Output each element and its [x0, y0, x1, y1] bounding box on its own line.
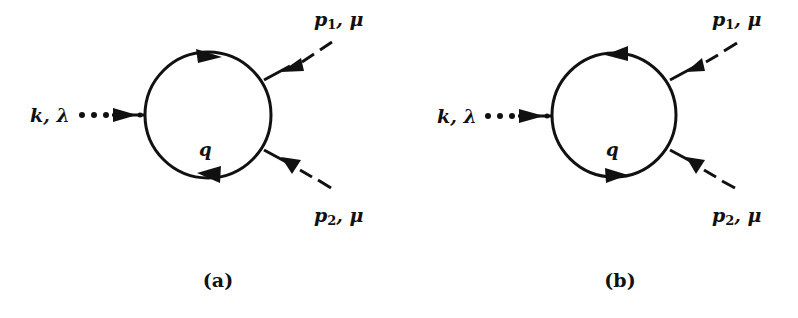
panel-a-p1-index: , μ: [336, 8, 363, 30]
panel-a-p1-dashed-line: [302, 42, 332, 62]
panel-b-p2-subscript: 2: [725, 213, 734, 228]
panel-a-p1-label: p1, μ: [314, 10, 363, 31]
panel-a-p2-symbol: p: [314, 204, 327, 226]
feynman-diagram-figure: k, λ p1, μ p2, μ q (a) k, λ p1, μ p2, μ …: [0, 0, 798, 318]
panel-b-incoming-label: k, λ: [437, 107, 477, 126]
panel-a-p2-label: p2, μ: [314, 206, 363, 227]
panel-a-caption: (a): [203, 271, 233, 290]
panel-a-p2-dashed-line: [300, 170, 331, 188]
panel-a-bottom-arrow-icon: [197, 166, 221, 183]
diagram-graphics: [0, 0, 798, 318]
panel-b-graphics: [485, 43, 737, 188]
panel-b-loop-momentum-label: q: [606, 141, 619, 159]
panel-b-p2-label: p2, μ: [712, 206, 761, 227]
panel-a-p1-symbol: p: [314, 8, 327, 30]
panel-b-p2-dashed-line: [704, 170, 735, 188]
panel-a-p2-index: , μ: [336, 204, 363, 226]
panel-a-p1-arrow-icon: [281, 58, 304, 72]
panel-b-p1-label: p1, μ: [712, 10, 761, 31]
panel-b-bottom-arrow-icon: [605, 168, 628, 183]
panel-a-p1-subscript: 1: [327, 17, 336, 32]
panel-b-caption: (b): [604, 271, 635, 290]
panel-a-p2-subscript: 2: [327, 213, 336, 228]
panel-b-p1-index: , μ: [734, 8, 761, 30]
panel-a-p1-solid-segment: [264, 66, 290, 80]
panel-b-p1-dashed-line: [706, 43, 737, 62]
panel-b-p1-subscript: 1: [725, 17, 734, 32]
panel-b-p1-arrow-icon: [686, 58, 705, 72]
panel-b-p2-arrow-icon: [686, 157, 705, 174]
panel-a-incoming-label: k, λ: [30, 106, 70, 125]
panel-a-loop-momentum-label: q: [199, 141, 212, 159]
panel-b-p1-symbol: p: [712, 8, 725, 30]
panel-b-p2-symbol: p: [712, 204, 725, 226]
panel-b-p2-index: , μ: [734, 204, 761, 226]
panel-a-graphics: [79, 42, 332, 188]
panel-a-p2-arrow-icon: [281, 157, 301, 174]
